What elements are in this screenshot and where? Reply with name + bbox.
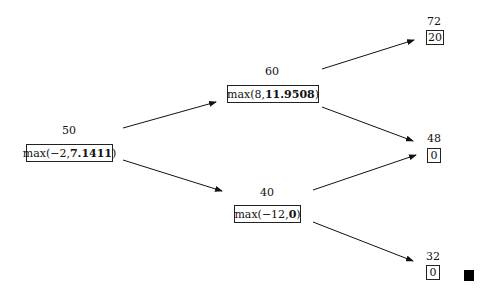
- fn-name: max(: [234, 207, 261, 222]
- node-ud-price: 48: [427, 133, 441, 145]
- close-paren: ): [112, 146, 116, 161]
- edge-down-dd: [313, 222, 413, 261]
- edge-root-down: [123, 160, 222, 191]
- edge-up-ud: [322, 107, 413, 141]
- continuation-value: 7.1411: [70, 146, 112, 161]
- fn-name: max(: [227, 87, 254, 102]
- edge-up-uu: [322, 40, 414, 69]
- edge-root-up: [123, 102, 216, 128]
- binomial-tree-diagram: 50 max(−2, 7.1411) 60 max(8, 11.9508) 40…: [0, 0, 484, 296]
- node-root-price: 50: [62, 125, 76, 137]
- node-ud-payoff: 0: [427, 148, 441, 163]
- node-down-price: 40: [260, 187, 274, 199]
- node-uu-price: 72: [427, 16, 441, 28]
- node-dd-price: 32: [426, 251, 440, 263]
- node-uu-payoff: 20: [426, 30, 444, 45]
- node-dd-payoff: 0: [426, 265, 440, 280]
- close-paren: ): [315, 87, 319, 102]
- exercise-value: −2: [50, 146, 66, 161]
- node-up-box: max(8, 11.9508): [227, 85, 319, 103]
- node-up-price: 60: [265, 66, 279, 78]
- exercise-value: 8: [254, 87, 261, 102]
- close-paren: ): [296, 207, 300, 222]
- qed-square-icon: [464, 270, 474, 281]
- fn-name: max(: [23, 146, 50, 161]
- edge-down-ud: [313, 155, 416, 190]
- continuation-value: 0: [289, 207, 297, 222]
- exercise-value: −12: [262, 207, 285, 222]
- node-root-box: max(−2, 7.1411): [26, 144, 113, 162]
- node-down-box: max(−12, 0): [234, 205, 301, 223]
- continuation-value: 11.9508: [265, 87, 315, 102]
